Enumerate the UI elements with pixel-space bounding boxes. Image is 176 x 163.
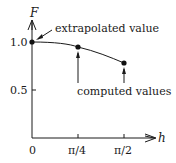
computed-label: computed values	[77, 85, 172, 98]
extrapolated-label: extrapolated value	[55, 22, 159, 35]
x-tick-label-pi4: π/4	[68, 144, 86, 157]
chart: F h 1.0 0.5 0 π/4 π/2 extrapolated value…	[0, 0, 176, 163]
y-axis-arrow-icon	[28, 20, 36, 30]
x-tick-label-0: 0	[29, 144, 36, 157]
computed-arrowhead-pi4-icon	[76, 51, 80, 58]
x-tick-label-pi2: π/2	[114, 144, 132, 157]
extrapolated-arrowhead-icon	[36, 34, 43, 40]
point-pi2	[121, 60, 126, 65]
x-axis-label: h	[158, 131, 166, 145]
y-axis-label: F	[29, 6, 39, 20]
y-tick-label-1: 1.0	[10, 36, 28, 49]
point-pi4	[75, 44, 80, 49]
computed-arrowhead-pi2-icon	[122, 67, 126, 74]
point-extrapolated	[29, 39, 34, 44]
y-tick-label-05: 0.5	[10, 84, 28, 97]
